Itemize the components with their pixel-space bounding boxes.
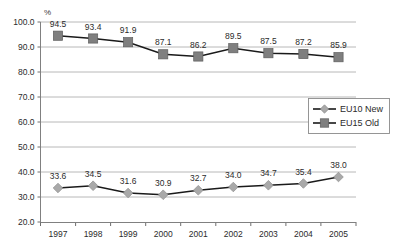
legend-item-eu15-old[interactable]: EU15 Old xyxy=(313,118,379,128)
y-tick-label: 20.0 xyxy=(18,217,35,227)
data-point-label: 32.7 xyxy=(190,173,207,183)
data-point-square-marker xyxy=(53,31,62,40)
data-point-label: 89.5 xyxy=(225,31,242,41)
y-tick-label: 80.0 xyxy=(18,67,35,77)
data-point-label: 93.4 xyxy=(85,22,102,32)
x-tick-label: 1999 xyxy=(119,229,138,239)
data-point-label: 87.5 xyxy=(260,36,277,46)
data-point-label: 38.0 xyxy=(330,160,347,170)
y-axis-unit-label: % xyxy=(44,8,51,17)
data-point-square-marker xyxy=(194,52,203,61)
data-point-square-marker xyxy=(264,49,273,58)
data-point-label: 86.2 xyxy=(190,40,207,50)
data-point-label: 94.5 xyxy=(50,19,67,29)
data-point-square-marker xyxy=(159,50,168,59)
x-tick-label: 1998 xyxy=(84,229,103,239)
data-point-square-marker xyxy=(334,53,343,62)
data-point-label: 30.9 xyxy=(155,178,172,188)
data-point-label: 87.1 xyxy=(155,37,172,47)
legend-label-eu10: EU10 New xyxy=(340,104,384,114)
data-point-label: 34.7 xyxy=(260,168,277,178)
legend-square-marker-icon xyxy=(320,119,328,127)
data-point-square-marker xyxy=(229,44,238,53)
chart-canvas: % 100.090.080.070.060.050.040.030.020.0 … xyxy=(0,0,397,252)
data-point-label: 33.6 xyxy=(50,171,67,181)
y-tick-label: 50.0 xyxy=(18,142,35,152)
line-chart: % 100.090.080.070.060.050.040.030.020.0 … xyxy=(0,0,397,252)
data-point-label: 34.0 xyxy=(225,170,242,180)
y-tick-label: 70.0 xyxy=(18,92,35,102)
y-tick-label: 90.0 xyxy=(18,42,35,52)
x-tick-label: 2000 xyxy=(154,229,173,239)
x-tick-label: 2003 xyxy=(259,229,278,239)
x-axis-tick-labels: 199719981999200020012002200320042005 xyxy=(49,229,349,239)
legend-label-eu15: EU15 Old xyxy=(340,118,379,128)
data-point-label: 31.6 xyxy=(120,176,137,186)
data-point-label: 35.4 xyxy=(295,167,312,177)
data-point-square-marker xyxy=(299,49,308,58)
chart-legend[interactable]: EU10 New EU15 Old xyxy=(309,99,390,134)
y-tick-label: 30.0 xyxy=(18,192,35,202)
x-tick-label: 2002 xyxy=(224,229,243,239)
y-tick-label: 40.0 xyxy=(18,167,35,177)
data-point-label: 34.5 xyxy=(85,169,102,179)
data-point-square-marker xyxy=(124,38,133,47)
data-point-square-marker xyxy=(89,34,98,43)
x-tick-label: 1997 xyxy=(49,229,68,239)
x-tick-label: 2005 xyxy=(329,229,348,239)
x-tick-label: 2001 xyxy=(189,229,208,239)
data-point-label: 85.9 xyxy=(330,40,347,50)
y-tick-label: 100.0 xyxy=(13,17,35,27)
data-point-label: 91.9 xyxy=(120,25,137,35)
x-tick-label: 2004 xyxy=(294,229,313,239)
y-tick-label: 60.0 xyxy=(18,117,35,127)
data-point-label: 87.2 xyxy=(295,37,312,47)
